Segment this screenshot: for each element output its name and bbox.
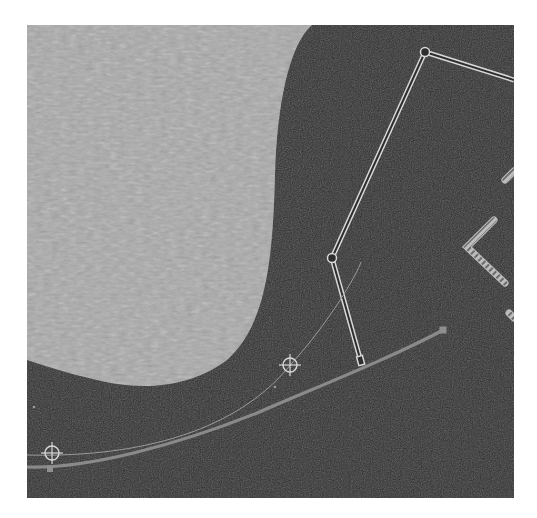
outline-end-cap[interactable] <box>357 355 365 365</box>
hatched-fragment-fill <box>509 313 514 318</box>
anchor-point-square[interactable] <box>47 466 53 472</box>
stray-dot <box>33 406 36 409</box>
anchor-point-square[interactable] <box>440 327 447 334</box>
stray-dot <box>274 386 277 389</box>
outline-joint[interactable] <box>328 254 337 263</box>
canvas-svg[interactable] <box>27 25 514 498</box>
outline-joint[interactable] <box>421 48 430 57</box>
drawing-canvas[interactable] <box>27 25 514 498</box>
